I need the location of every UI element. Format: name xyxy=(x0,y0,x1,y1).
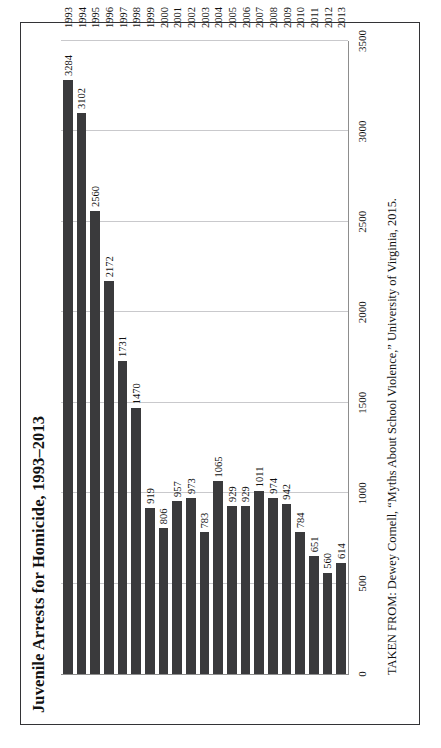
category-label: 2004 xyxy=(213,7,224,28)
bar xyxy=(227,505,237,673)
bar xyxy=(159,528,169,674)
bar xyxy=(131,408,141,674)
value-tick-label: 0 xyxy=(356,671,368,677)
bar-slot: 614 xyxy=(334,41,348,674)
category-label: 1998 xyxy=(131,7,142,28)
bars-group: 3284310225602172173114709198069579737831… xyxy=(61,41,348,674)
page-canvas: Juvenile Arrests for Homicide, 1993–2013… xyxy=(0,0,441,748)
bar xyxy=(90,211,100,674)
bar-value-label: 919 xyxy=(144,488,155,504)
category-label: 2012 xyxy=(322,7,333,28)
bar xyxy=(213,481,223,674)
bar-slot: 942 xyxy=(280,41,294,674)
value-tick-label: 500 xyxy=(356,575,368,592)
bar-slot: 929 xyxy=(225,41,239,674)
bar-value-label: 974 xyxy=(267,478,278,494)
bar-slot: 783 xyxy=(198,41,212,674)
category-label: 2008 xyxy=(267,7,278,28)
bar-value-label: 929 xyxy=(240,486,251,502)
bar-slot: 2172 xyxy=(102,41,116,674)
category-label: 2005 xyxy=(226,7,237,28)
value-tick-label: 3000 xyxy=(356,120,368,142)
bar-slot: 1470 xyxy=(129,41,143,674)
bar-value-label: 942 xyxy=(281,483,292,499)
bar xyxy=(295,532,305,674)
category-label: 2007 xyxy=(254,7,265,28)
bar-value-label: 929 xyxy=(226,486,237,502)
chart-title: Juvenile Arrests for Homicide, 1993–2013 xyxy=(29,415,49,712)
bar-value-label: 973 xyxy=(185,478,196,494)
bar-value-label: 651 xyxy=(308,536,319,552)
value-tick-label: 2000 xyxy=(356,301,368,323)
category-label: 1995 xyxy=(90,7,101,28)
value-tick-label: 2500 xyxy=(356,210,368,232)
rotated-figure-wrapper: Juvenile Arrests for Homicide, 1993–2013… xyxy=(25,29,415,719)
bar xyxy=(323,572,333,673)
bar xyxy=(63,80,73,674)
category-label: 2009 xyxy=(281,7,292,28)
bar xyxy=(186,498,196,674)
bar-value-label: 1731 xyxy=(117,335,128,356)
bar xyxy=(336,562,346,673)
category-label: 2002 xyxy=(185,7,196,28)
bar-value-label: 3102 xyxy=(76,87,87,108)
category-label: 2006 xyxy=(240,7,251,28)
category-label: 2010 xyxy=(295,7,306,28)
bar-value-label: 784 xyxy=(295,512,306,528)
bar-slot: 973 xyxy=(184,41,198,674)
bar xyxy=(77,112,87,673)
category-label: 2000 xyxy=(158,7,169,28)
bar-value-label: 806 xyxy=(158,508,169,524)
bar-value-label: 614 xyxy=(336,543,347,559)
bar xyxy=(254,491,264,674)
bar-slot: 1011 xyxy=(252,41,266,674)
category-label: 1997 xyxy=(117,7,128,28)
bar-slot: 560 xyxy=(321,41,335,674)
category-label: 1993 xyxy=(62,7,73,28)
bar-slot: 806 xyxy=(157,41,171,674)
bar-slot: 3102 xyxy=(75,41,89,674)
bar-slot: 3284 xyxy=(61,41,75,674)
plot-area: 3284310225602172173114709198069579737831… xyxy=(61,41,349,675)
bar-value-label: 2560 xyxy=(90,186,101,207)
bar-slot: 974 xyxy=(266,41,280,674)
bar-value-label: 783 xyxy=(199,512,210,528)
value-tick-label: 1500 xyxy=(356,391,368,413)
bar-value-label: 3284 xyxy=(62,55,73,76)
bar-slot: 784 xyxy=(293,41,307,674)
bar-value-label: 1065 xyxy=(213,456,224,477)
bar-value-label: 560 xyxy=(322,552,333,568)
category-label: 1996 xyxy=(103,7,114,28)
bar-slot: 651 xyxy=(307,41,321,674)
bar xyxy=(104,281,114,674)
bar xyxy=(200,532,210,674)
bar-value-label: 2172 xyxy=(103,256,114,277)
category-label: 2011 xyxy=(308,7,319,28)
figure-border-frame: Juvenile Arrests for Homicide, 1993–2013… xyxy=(20,22,420,725)
category-label: 1999 xyxy=(144,7,155,28)
bar xyxy=(268,497,278,673)
bar-slot: 957 xyxy=(170,41,184,674)
bar xyxy=(282,503,292,673)
bar-value-label: 1470 xyxy=(131,383,142,404)
bar-slot: 1731 xyxy=(116,41,130,674)
bar xyxy=(145,507,155,673)
bar-slot: 929 xyxy=(239,41,253,674)
bar-value-label: 1011 xyxy=(254,466,265,487)
bar xyxy=(172,500,182,673)
category-label: 2001 xyxy=(172,7,183,28)
chart-figure: Juvenile Arrests for Homicide, 1993–2013… xyxy=(25,29,415,719)
bar-slot: 1065 xyxy=(211,41,225,674)
source-citation: TAKEN FROM: Dewey Cornell, “Myths About … xyxy=(385,198,400,675)
bar-slot: 919 xyxy=(143,41,157,674)
bar-value-label: 957 xyxy=(172,481,183,497)
category-label: 2003 xyxy=(199,7,210,28)
bar xyxy=(241,505,251,673)
bar xyxy=(118,360,128,673)
category-label: 1994 xyxy=(76,7,87,28)
value-tick-label: 1000 xyxy=(356,482,368,504)
bar xyxy=(309,556,319,674)
category-label: 2013 xyxy=(336,7,347,28)
bar-slot: 2560 xyxy=(88,41,102,674)
value-tick-label: 3500 xyxy=(356,30,368,52)
